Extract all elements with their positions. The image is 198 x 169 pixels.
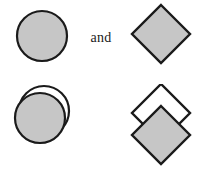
conjunction-cell-top: and [80,0,122,84]
figure-row-bottom: and [0,84,198,169]
single-circle-graphic [4,0,80,84]
overlapping-circles-graphic [4,84,80,169]
diamond-shape [132,5,190,63]
single-diamond-graphic [120,0,198,84]
conjunction-label-top: and [80,31,122,45]
overlapping-circles-cell [4,84,80,169]
single-diamond-cell [120,0,198,84]
circle-shape [17,11,67,61]
overlapping-diamonds-graphic [120,84,198,169]
figure-canvas: and and [0,0,198,169]
single-circle-cell [4,0,80,84]
figure-row-top: and [0,0,198,84]
front-circle-shape [15,93,65,143]
conjunction-cell-bottom: and [80,84,122,169]
overlapping-diamonds-cell [120,84,198,169]
